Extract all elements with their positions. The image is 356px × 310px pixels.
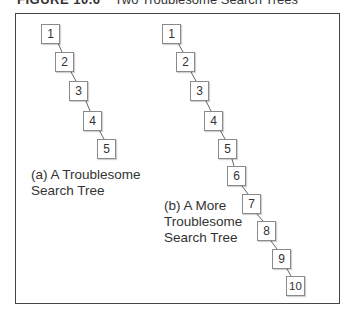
tree-b-node-2: 2 <box>176 52 195 72</box>
tree-b-node-9: 9 <box>272 249 291 269</box>
tree-b-node-8: 8 <box>257 221 276 241</box>
tree-b-caption-line-1: (b) A More <box>164 198 242 214</box>
tree-b-caption: (b) A More Troublesome Search Tree <box>164 198 242 246</box>
tree-a-node-3: 3 <box>69 81 88 101</box>
tree-b-node-3: 3 <box>190 81 209 101</box>
tree-a-caption-line-2: Search Tree <box>31 183 141 199</box>
tree-b-node-10: 10 <box>286 276 305 296</box>
tree-edges <box>0 0 356 310</box>
tree-b-caption-line-2: Troublesome <box>164 214 242 230</box>
tree-b-node-5: 5 <box>218 139 237 159</box>
tree-a-caption-line-1: (a) A Troublesome <box>31 167 141 183</box>
tree-b-node-6: 6 <box>227 166 246 186</box>
tree-a-node-5: 5 <box>97 139 116 159</box>
tree-b-node-7: 7 <box>242 194 261 214</box>
tree-b-caption-line-3: Search Tree <box>164 230 242 246</box>
tree-a-node-4: 4 <box>83 111 102 131</box>
tree-a-node-1: 1 <box>41 24 60 44</box>
tree-b-node-1: 1 <box>162 24 181 44</box>
tree-b-node-4: 4 <box>204 111 223 131</box>
tree-a-caption: (a) A Troublesome Search Tree <box>31 167 141 199</box>
tree-a-node-2: 2 <box>55 52 74 72</box>
